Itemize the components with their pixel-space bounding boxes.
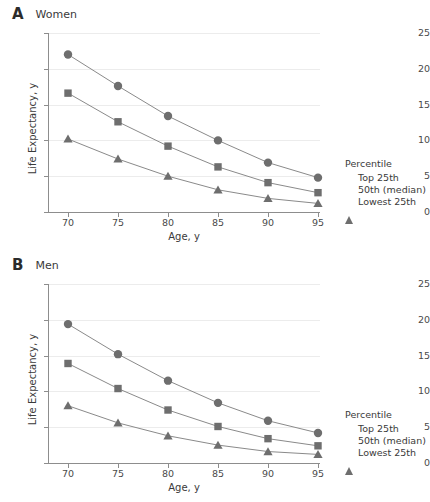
legend-item-label: Top 25th (358, 172, 399, 183)
data-point-circle (164, 112, 172, 120)
series-triangle (63, 135, 322, 207)
series-layer (0, 0, 430, 251)
legend-item-top-25th: Top 25th (345, 171, 430, 183)
legend-item-label: 50th (median) (358, 184, 426, 195)
series-layer (0, 251, 430, 502)
x-axis-title: Age, y (48, 231, 320, 242)
triangle-marker-icon (345, 448, 354, 457)
data-point-triangle (63, 401, 72, 409)
data-point-square (214, 423, 221, 430)
data-point-triangle (63, 135, 72, 143)
panel-women: A Women 0510152025 707580859095 Age, y L… (0, 0, 430, 251)
legend-title: Percentile (345, 158, 430, 169)
data-point-circle (314, 173, 322, 181)
data-point-circle (264, 417, 272, 425)
data-point-circle (214, 136, 222, 144)
circle-marker-icon (345, 424, 354, 433)
data-point-square (164, 406, 171, 413)
data-point-square (214, 163, 221, 170)
series-square (64, 360, 321, 450)
legend-item-label: Top 25th (358, 423, 399, 434)
legend-item-label: Lowest 25th (358, 447, 416, 458)
data-point-triangle (163, 172, 172, 180)
series-line (68, 93, 318, 193)
plot-area-men: 0510152025 707580859095 Age, y Life Expe… (0, 251, 430, 502)
series-square (64, 89, 321, 196)
data-point-circle (164, 376, 172, 384)
series-circle (64, 50, 322, 182)
data-point-circle (114, 350, 122, 358)
legend-title: Percentile (345, 409, 430, 420)
plot-area-women: 0510152025 707580859095 Age, y Life Expe… (0, 0, 430, 251)
data-point-square (264, 435, 271, 442)
legend-item-lowest-25th: Lowest 25th (345, 446, 430, 458)
data-point-triangle (113, 155, 122, 163)
legend-item-label: 50th (median) (358, 435, 426, 446)
legend-item-label: Lowest 25th (358, 196, 416, 207)
data-point-circle (214, 399, 222, 407)
series-line (68, 406, 318, 455)
data-point-square (114, 118, 121, 125)
triangle-marker-icon (345, 197, 354, 206)
panel-men: B Men 0510152025 707580859095 Age, y Lif… (0, 251, 430, 502)
series-line (68, 363, 318, 445)
data-point-square (264, 179, 271, 186)
legend-item-lowest-25th: Lowest 25th (345, 195, 430, 207)
legend-item-top-25th: Top 25th (345, 422, 430, 434)
series-circle (64, 320, 322, 437)
data-point-square (64, 360, 71, 367)
legend-item-median: 50th (median) (345, 434, 430, 446)
data-point-square (164, 142, 171, 149)
circle-marker-icon (345, 173, 354, 182)
series-line (68, 324, 318, 433)
legend: Percentile Top 25th 50th (median) Lowest… (345, 409, 430, 458)
data-point-square (114, 385, 121, 392)
series-line (68, 139, 318, 203)
data-point-square (314, 189, 321, 196)
x-axis-title: Age, y (48, 482, 320, 493)
data-point-square (314, 442, 321, 449)
legend-item-median: 50th (median) (345, 183, 430, 195)
series-line (68, 54, 318, 177)
data-point-square (64, 89, 71, 96)
data-point-triangle (113, 419, 122, 427)
data-point-circle (314, 429, 322, 437)
series-triangle (63, 401, 322, 458)
square-marker-icon (345, 436, 354, 445)
data-point-circle (64, 320, 72, 328)
y-axis-title: Life Expectancy, y (27, 49, 38, 209)
square-marker-icon (345, 185, 354, 194)
y-axis-title: Life Expectancy, y (27, 300, 38, 460)
data-point-circle (114, 82, 122, 90)
data-point-circle (264, 158, 272, 166)
data-point-circle (64, 50, 72, 58)
figure-container: A Women 0510152025 707580859095 Age, y L… (0, 0, 430, 502)
legend: Percentile Top 25th 50th (median) Lowest… (345, 158, 430, 207)
